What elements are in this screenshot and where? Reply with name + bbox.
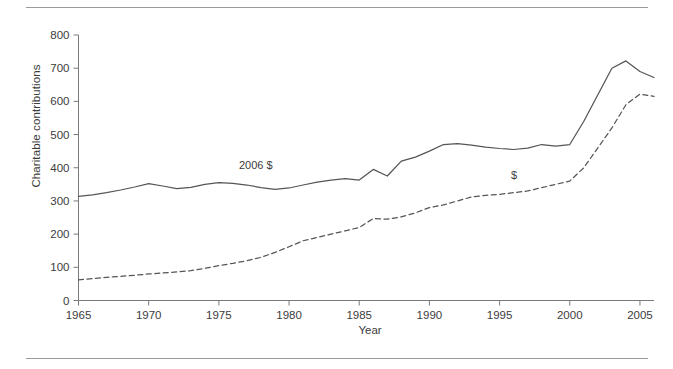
x-tick-label: 2005 [620,309,660,321]
x-tick-label: 2000 [550,309,590,321]
y-tick-label: 800 [30,29,70,41]
series-label-nominal-dollars: $ [511,169,517,181]
y-tick-label: 500 [30,129,70,141]
x-tick-label: 1995 [480,309,520,321]
x-tick-label: 1980 [269,309,309,321]
series-line-real [79,61,655,196]
y-tick-label: 200 [30,228,70,240]
y-tick-label: 700 [30,62,70,74]
x-tick-label: 1970 [129,309,169,321]
x-axis-title: Year [320,324,420,336]
x-tick-label: 1990 [409,309,449,321]
y-tick-label: 400 [30,162,70,174]
x-tick-label: 1975 [199,309,239,321]
y-tick-label: 300 [30,195,70,207]
y-tick-label: 0 [30,295,70,307]
x-tick-label: 1985 [339,309,379,321]
series-label-real-dollars: 2006 $ [239,159,273,171]
y-tick-label: 600 [30,95,70,107]
y-tick-label: 100 [30,261,70,273]
x-tick-label: 1965 [59,309,99,321]
chart-figure: Charitable contributions Year 0100200300… [0,0,673,369]
